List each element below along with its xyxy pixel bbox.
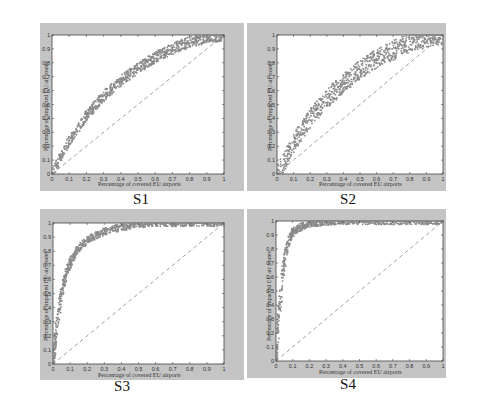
y-axis-title: Percentage of impacted EU air routes (266, 251, 272, 341)
x-tick-label: 0.9 (203, 366, 211, 372)
panel-label-s1: S1 (111, 191, 171, 208)
x-tick-label: 1 (441, 176, 444, 182)
panel-s1: 000.10.10.20.20.30.30.40.40.50.50.60.60.… (40, 23, 244, 191)
x-tick-label: 0.8 (186, 366, 194, 372)
y-tick-label: 0.9 (43, 234, 51, 240)
panel-s3: 000.10.10.20.20.30.30.40.40.50.50.60.60.… (40, 209, 244, 380)
y-tick-label: 1 (271, 218, 274, 224)
y-tick-label: 0.1 (266, 344, 274, 350)
x-tick-label: 0.2 (306, 363, 314, 369)
panel-label-s2: S2 (318, 191, 378, 208)
x-axis-title: Percentage of covered EU airports (319, 181, 402, 187)
plot-s2: 000.10.10.20.20.30.30.40.40.50.50.60.60.… (247, 23, 446, 191)
plot-s3: 000.10.10.20.20.30.30.40.40.50.50.60.60.… (40, 209, 244, 380)
y-tick-label: 0.9 (42, 46, 50, 52)
x-tick-label: 0.8 (406, 176, 414, 182)
x-tick-label: 0.9 (423, 176, 431, 182)
y-tick-label: 0 (272, 171, 275, 177)
y-axis-title: Percentage of impacted EU air routes (267, 61, 273, 151)
y-tick-label: 0.9 (266, 232, 274, 238)
x-axis-title: Percentage of covered EU airports (98, 181, 181, 187)
panel-s4: 000.10.10.20.20.30.30.40.40.50.50.60.60.… (247, 209, 446, 378)
x-tick-label: 1 (441, 363, 444, 369)
x-tick-label: 0.1 (65, 176, 73, 182)
x-tick-label: 0 (51, 366, 54, 372)
y-tick-label: 0.1 (267, 157, 275, 163)
x-tick-label: 0.8 (406, 363, 414, 369)
y-tick-label: 0.1 (42, 157, 50, 163)
x-tick-label: 1 (222, 366, 225, 372)
x-tick-label: 0.9 (422, 363, 430, 369)
plot-s1: 000.10.10.20.20.30.30.40.40.50.50.60.60.… (40, 23, 244, 191)
x-tick-label: 0.8 (186, 176, 194, 182)
y-tick-label: 0 (48, 361, 51, 367)
x-axis-title: Percentage of covered EU airports (319, 369, 402, 375)
y-tick-label: 1 (272, 32, 275, 38)
y-axis-title: Percentage of impacted EU air routes (43, 251, 49, 341)
y-tick-label: 1 (48, 220, 51, 226)
x-tick-label: 0.2 (83, 176, 91, 182)
x-tick-label: 0.2 (306, 176, 314, 182)
x-tick-label: 0.1 (66, 366, 74, 372)
panel-s2: 000.10.10.20.20.30.30.40.40.50.50.60.60.… (247, 23, 446, 191)
y-tick-label: 1 (47, 32, 50, 38)
x-tick-label: 0.9 (203, 176, 211, 182)
plot-s4: 000.10.10.20.20.30.30.40.40.50.50.60.60.… (247, 209, 446, 378)
y-tick-label: 0.9 (267, 46, 275, 52)
x-tick-label: 0 (274, 363, 277, 369)
y-tick-label: 0 (47, 171, 50, 177)
x-tick-label: 0 (50, 176, 53, 182)
panel-label-s3: S3 (92, 378, 152, 395)
y-tick-label: 0 (271, 358, 274, 364)
x-tick-label: 0.1 (290, 176, 298, 182)
y-tick-label: 0.1 (43, 347, 51, 353)
x-tick-label: 0.1 (289, 363, 297, 369)
x-tick-label: 0 (275, 176, 278, 182)
x-tick-label: 1 (222, 176, 225, 182)
panel-label-s4: S4 (318, 376, 378, 393)
x-tick-label: 0.2 (83, 366, 91, 372)
y-axis-title: Percentage of impacted EU air routes (43, 61, 49, 151)
